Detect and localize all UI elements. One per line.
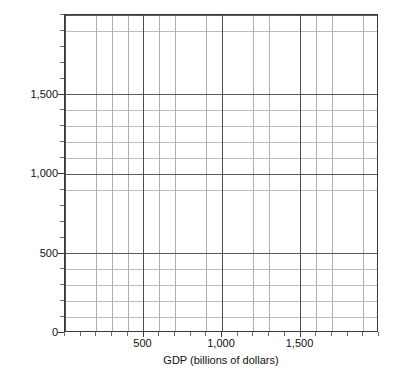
x-axis-tick — [95, 332, 96, 336]
y-axis-tick-label: 500 — [40, 247, 58, 259]
y-axis-tick — [60, 14, 64, 15]
y-axis-tick — [60, 237, 64, 238]
y-axis-tick — [60, 141, 64, 142]
x-axis-tick — [315, 332, 316, 336]
x-axis-tick — [158, 332, 159, 336]
y-axis-tick — [60, 268, 64, 269]
y-axis-tick — [60, 46, 64, 47]
x-axis-tick — [347, 332, 348, 336]
y-axis-tick-label: 0 — [52, 326, 58, 338]
x-axis-tick — [237, 332, 238, 336]
x-axis-tick-label: 500 — [133, 337, 151, 349]
y-axis-tick — [60, 157, 64, 158]
x-axis-tick — [331, 332, 332, 336]
y-axis-tick — [58, 253, 64, 254]
grid-major-lines — [65, 15, 377, 331]
y-axis-tick — [58, 94, 64, 95]
y-axis-tick — [60, 205, 64, 206]
x-axis-tick — [362, 332, 363, 336]
y-axis-tick — [60, 189, 64, 190]
x-axis-tick — [205, 332, 206, 336]
y-axis-tick-label: 1,000 — [30, 167, 58, 179]
x-axis-tick — [174, 332, 175, 336]
x-axis-tick — [127, 332, 128, 336]
y-axis-tick — [60, 284, 64, 285]
x-axis-tick — [80, 332, 81, 336]
chart-figure: 5001,0001,500 05001,0001,500 GDP (billio… — [0, 0, 398, 378]
y-axis-title: Intended spending (millions of dollars) — [11, 0, 33, 25]
x-axis-title: GDP (billions of dollars) — [64, 354, 378, 366]
x-axis-tick — [190, 332, 191, 336]
x-axis-tick-label: 1,500 — [286, 337, 314, 349]
y-axis-tick-label: 1,500 — [30, 88, 58, 100]
y-axis-tick — [60, 78, 64, 79]
y-axis-tick — [58, 332, 64, 333]
y-axis-tick — [60, 62, 64, 63]
x-axis-tick — [378, 332, 379, 336]
y-axis-tick — [60, 30, 64, 31]
x-axis-tick — [284, 332, 285, 336]
x-axis-tick — [268, 332, 269, 336]
y-axis-tick — [60, 109, 64, 110]
y-axis-tick — [60, 125, 64, 126]
x-axis-tick — [64, 332, 65, 336]
y-axis-tick — [60, 221, 64, 222]
y-axis-tick — [60, 316, 64, 317]
x-axis-tick-label: 1,000 — [207, 337, 235, 349]
plot-area — [64, 14, 378, 332]
y-axis-line — [64, 14, 65, 332]
y-axis-tick — [58, 173, 64, 174]
x-axis-tick — [111, 332, 112, 336]
x-axis-tick — [252, 332, 253, 336]
y-axis-tick — [60, 300, 64, 301]
